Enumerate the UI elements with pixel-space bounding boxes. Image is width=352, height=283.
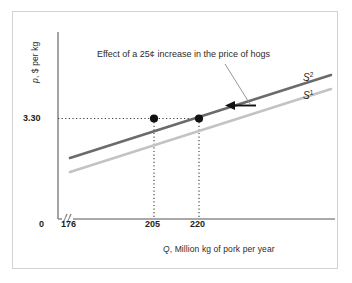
curve-label-s2: S2 (303, 72, 313, 83)
x-axis-title-rest: , Million kg of pork per year (170, 244, 275, 254)
curve-label-s2-base: S (303, 72, 310, 83)
x-axis-title-var: Q (163, 244, 170, 254)
x-tick-label-176: 176 (61, 220, 76, 229)
supply-curve-s1 (70, 89, 331, 172)
y-tick-label-330: 3.30 (23, 114, 41, 123)
y-axis-title-rest: , $ per kg (30, 42, 40, 78)
annotation-text: Effect of a 25¢ increase in the price of… (97, 50, 270, 59)
figure-panel: p, $ per kg Q, Million kg of pork per ye… (12, 11, 338, 269)
shift-arrow-icon (225, 101, 256, 110)
equilibrium-point-e1 (195, 114, 203, 122)
curve-label-s1-base: S (303, 90, 310, 101)
axis-lines (58, 32, 335, 219)
x-tick-label-220: 220 (190, 220, 205, 229)
x-tick-label-205: 205 (145, 220, 160, 229)
annotation-leader-line (225, 64, 250, 104)
equilibrium-point-e2 (150, 114, 158, 122)
x-axis-title: Q, Million kg of pork per year (163, 245, 275, 254)
y-axis-title-var: p (30, 78, 40, 83)
curve-label-s1: S1 (303, 90, 313, 101)
curve-label-s1-sup: 1 (310, 89, 314, 96)
x-tick-label-0: 0 (39, 220, 44, 229)
y-axis-title: p, $ per kg (31, 24, 40, 100)
curve-label-s2-sup: 2 (310, 71, 314, 78)
